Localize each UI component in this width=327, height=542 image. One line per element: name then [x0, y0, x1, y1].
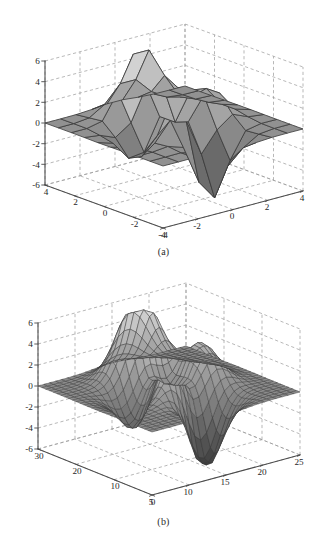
surface-plot-b-canvas: -6-4-202463020100510152025: [0, 265, 327, 542]
z-tick-label: 6: [28, 318, 33, 328]
z-tick-label: 4: [28, 339, 33, 349]
z-tick-label: 4: [35, 77, 40, 87]
z-tick-label: -2: [32, 139, 40, 149]
y-tick-label: 10: [110, 481, 120, 491]
surface-mesh: [45, 50, 303, 198]
surface-plot-a-canvas: -6-4-20246420-2-4-4-2024: [0, 0, 327, 271]
z-tick-label: -6: [32, 180, 40, 190]
z-tick-label: 0: [35, 118, 40, 128]
x-tick-label: 10: [183, 487, 193, 497]
x-tick-label: 4: [300, 193, 305, 203]
y-tick-label: 20: [72, 466, 82, 476]
x-tick-label: -4: [158, 230, 166, 240]
z-tick-label: 0: [28, 381, 33, 391]
x-tick-label: 0: [230, 211, 235, 221]
x-tick-label: 5: [149, 497, 154, 507]
z-tick-label: -6: [25, 444, 33, 454]
caption-a: (a): [0, 246, 327, 257]
y-tick-label: 2: [73, 197, 78, 207]
y-tick-label: 30: [34, 451, 44, 461]
z-tick-label: 2: [28, 360, 33, 370]
surface-plot-panel-a: -6-4-20246420-2-4-4-2024: [0, 0, 327, 271]
caption-b: (b): [0, 516, 327, 527]
z-tick-label: -4: [32, 160, 40, 170]
z-tick-label: -4: [25, 423, 33, 433]
x-tick-label: -2: [193, 221, 201, 231]
x-tick-label: 2: [265, 202, 270, 212]
x-tick-label: 20: [257, 467, 267, 477]
z-tick-label: 2: [35, 98, 40, 108]
surface-plot-panel-b: -6-4-202463020100510152025: [0, 265, 327, 542]
y-tick-label: 0: [103, 208, 108, 218]
figure-two-surface-plots: -6-4-20246420-2-4-4-2024 (a) -6-4-202463…: [0, 0, 327, 542]
y-tick-label: -2: [131, 219, 139, 229]
x-tick-label: 15: [220, 477, 230, 487]
y-tick-label: 4: [44, 187, 49, 197]
z-tick-label: -2: [25, 402, 33, 412]
x-tick-label: 25: [294, 457, 304, 467]
z-tick-label: 6: [35, 56, 40, 66]
